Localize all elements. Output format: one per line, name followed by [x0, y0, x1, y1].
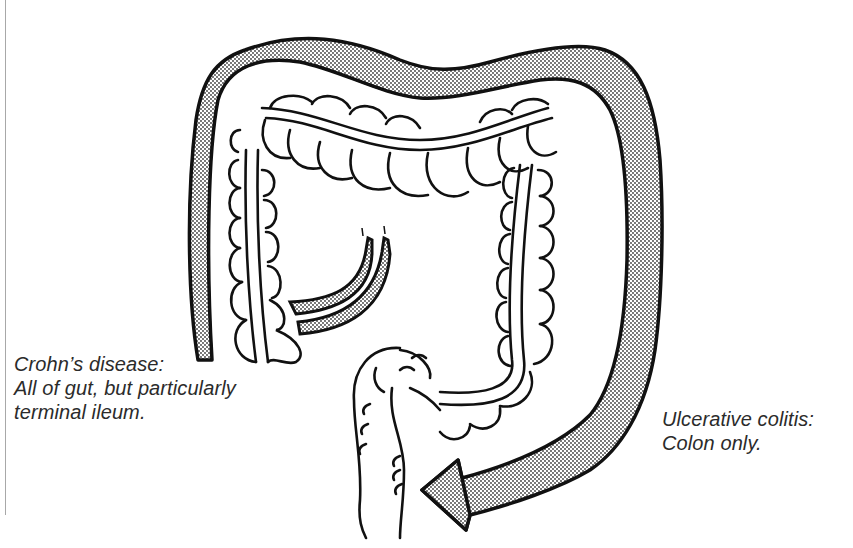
crohns-disease-label: Crohn’s disease: All of gut, but particu… — [14, 352, 236, 424]
uc-label-line2: Colon only. — [662, 431, 814, 455]
crohns-label-title: Crohn’s disease: — [14, 352, 236, 376]
intestine-diagram — [0, 0, 853, 548]
rectum — [354, 348, 430, 538]
ulcerative-colitis-label: Ulcerative colitis: Colon only. — [662, 407, 814, 455]
uc-label-title: Ulcerative colitis: — [662, 407, 814, 431]
terminal-ileum — [290, 226, 390, 334]
crohns-label-line3: terminal ileum. — [14, 400, 236, 424]
crohns-label-line2: All of gut, but particularly — [14, 376, 236, 400]
ulcerative-colitis-arrow — [422, 460, 470, 530]
